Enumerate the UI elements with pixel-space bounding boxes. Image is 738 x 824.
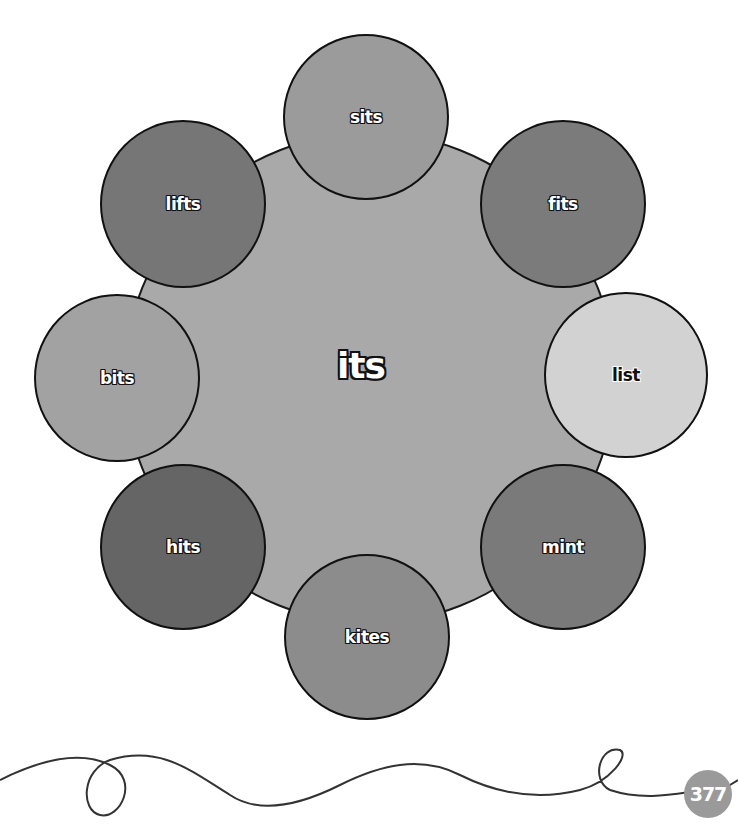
word-family-diagram: its sits fits list mint kites hits bits … — [0, 0, 738, 824]
squiggle-line-decoration — [0, 0, 738, 824]
page-number-badge: 377 — [684, 770, 732, 818]
